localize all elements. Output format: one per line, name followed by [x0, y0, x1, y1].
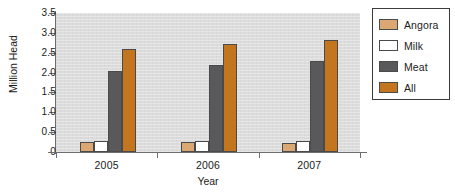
- x-axis-tick-label-2007: 2007: [259, 159, 360, 171]
- x-axis-tick-label-2006: 2006: [157, 159, 258, 171]
- legend-item-meat: Meat: [379, 56, 449, 77]
- legend-swatch-all: [379, 82, 398, 93]
- x-axis-title: Year: [56, 175, 360, 187]
- legend-item-milk: Milk: [379, 35, 449, 56]
- x-axis-separator-tick: [360, 152, 361, 158]
- legend-swatch-milk: [379, 40, 398, 51]
- bar-milk-2006: [195, 141, 209, 152]
- x-axis-separator-tick: [56, 152, 57, 158]
- y-axis-tick-label: 0.5: [10, 127, 56, 137]
- bar-angora-2006: [181, 142, 195, 152]
- legend-label: Angora: [404, 19, 438, 31]
- legend-item-all: All: [379, 77, 449, 98]
- bar-milk-2007: [296, 141, 310, 152]
- bar-angora-2005: [80, 142, 94, 152]
- legend-item-angora: Angora: [379, 14, 449, 35]
- legend-swatch-angora: [379, 19, 398, 30]
- bar-meat-2007: [310, 61, 324, 152]
- legend-label: Milk: [404, 40, 423, 52]
- y-axis-title: Million Head: [7, 18, 19, 110]
- x-axis-line: [48, 152, 367, 153]
- y-axis-tick-label: 3.5: [10, 8, 56, 18]
- bar-milk-2005: [94, 141, 108, 152]
- bar-chart-figure: 3.53.02.52.01.51.00.50 Million Head 2005…: [0, 0, 455, 192]
- bar-meat-2006: [209, 65, 223, 152]
- x-axis-separator-tick: [157, 152, 158, 158]
- x-axis-tick-label-2005: 2005: [56, 159, 157, 171]
- bar-meat-2005: [108, 71, 122, 152]
- legend-label: Meat: [404, 61, 428, 73]
- chart-legend: AngoraMilkMeatAll: [372, 8, 450, 100]
- legend-swatch-meat: [379, 61, 398, 72]
- bar-all-2006: [223, 44, 237, 152]
- legend-label: All: [404, 82, 416, 94]
- bars-layer: [56, 13, 360, 152]
- x-axis-separator-tick: [259, 152, 260, 158]
- bar-angora-2007: [282, 143, 296, 152]
- bar-all-2007: [324, 40, 338, 152]
- bar-all-2005: [122, 49, 136, 152]
